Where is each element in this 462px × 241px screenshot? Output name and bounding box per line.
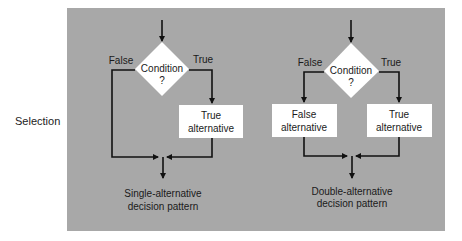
condition-text: Condition: [141, 63, 183, 74]
true-branch-label: True: [381, 57, 402, 68]
false-branch-label: False: [109, 55, 134, 66]
condition-text: Condition: [330, 65, 372, 76]
true-alternative-text-2: alternative: [376, 122, 423, 133]
true-branch-label: True: [193, 54, 214, 65]
false-alternative-text-2: alternative: [281, 122, 328, 133]
false-branch-label: False: [298, 57, 323, 68]
condition-question: ?: [348, 77, 354, 88]
double-caption-line2: decision pattern: [317, 198, 388, 209]
true-alternative-text-2: alternative: [188, 123, 235, 134]
single-caption-line1: Single-alternative: [124, 188, 202, 199]
double-caption-line1: Double-alternative: [311, 186, 393, 197]
true-alternative-text: True: [201, 110, 222, 121]
false-alternative-text: False: [292, 109, 317, 120]
true-alternative-text: True: [389, 109, 410, 120]
single-caption-line2: decision pattern: [128, 201, 199, 212]
selection-diagram: Condition ? False True True alternative …: [0, 0, 462, 241]
condition-question: ?: [159, 75, 165, 86]
